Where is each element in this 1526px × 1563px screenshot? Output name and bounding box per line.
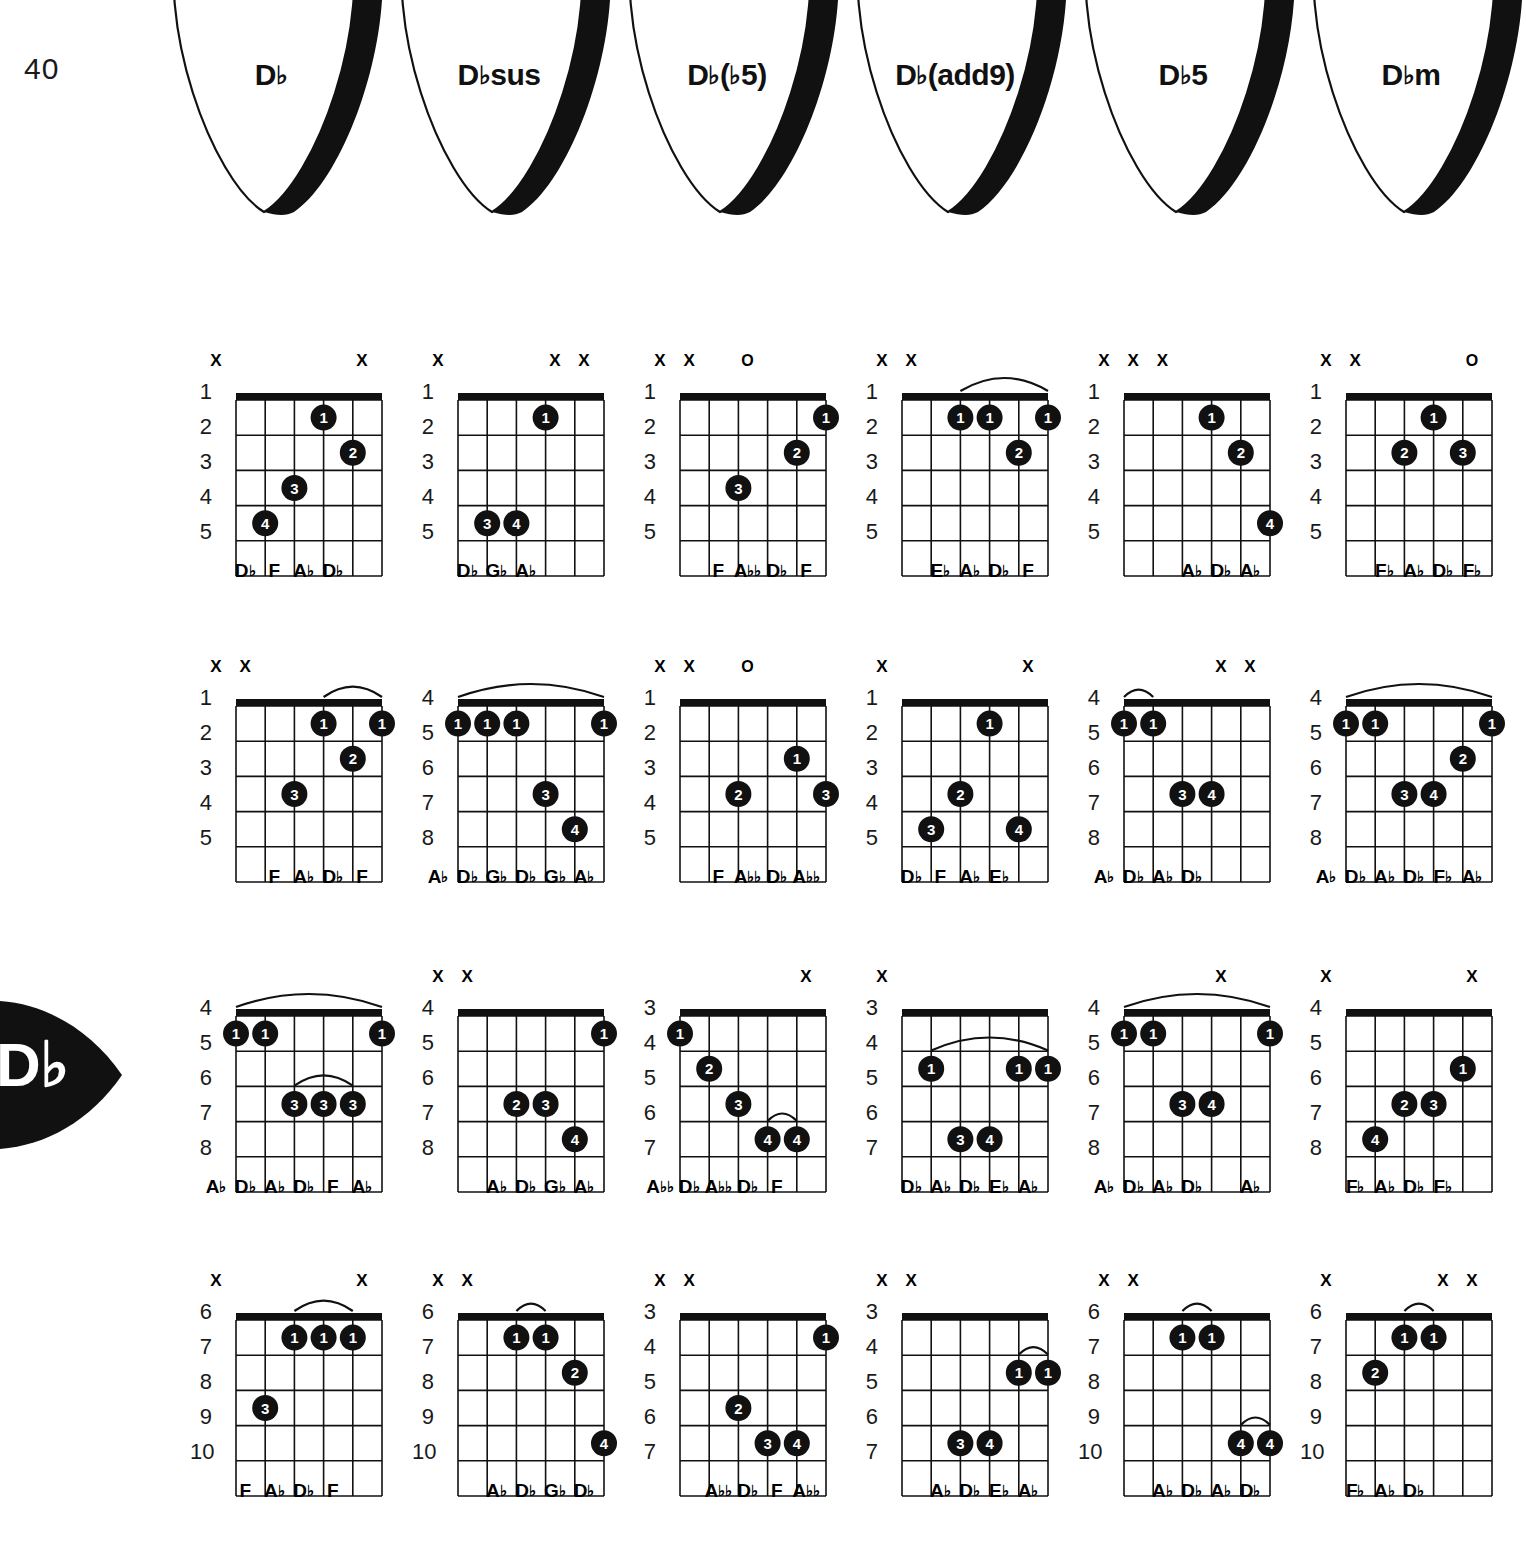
chord-diagram[interactable]: 45678111234A♭D♭A♭D♭F♭A♭ — [1300, 658, 1510, 898]
finger-dot: 1 — [369, 711, 395, 737]
fretboard-wrap[interactable]: 123 — [660, 680, 806, 856]
fretboard-wrap[interactable]: 1112 — [882, 374, 1028, 550]
string-markers: XXO — [1326, 352, 1472, 374]
fretboard-wrap[interactable]: 1134 — [1104, 680, 1250, 856]
chord-diagram[interactable]: XX6789101144A♭D♭A♭D♭ — [1078, 1272, 1288, 1512]
svg-text:1: 1 — [319, 715, 327, 732]
finger-dot: 1 — [813, 1325, 839, 1351]
chord-diagram[interactable]: 45678111333A♭D♭A♭D♭FA♭ — [190, 968, 400, 1208]
chord-diagram[interactable]: XX123451234D♭FA♭D♭ — [190, 352, 400, 592]
chord-diagram[interactable]: 45678111134A♭D♭G♭D♭G♭A♭ — [412, 658, 622, 898]
chord-diagram[interactable]: XX456781134A♭D♭A♭D♭ — [1078, 658, 1288, 898]
fret-number: 8 — [1300, 1137, 1322, 1159]
svg-text:1: 1 — [1149, 715, 1157, 732]
fretboard: 123 — [1326, 374, 1512, 584]
finger-dot: 4 — [252, 510, 278, 536]
fret-number: 5 — [412, 521, 434, 543]
chord-diagram[interactable]: XXX12345134D♭G♭A♭ — [412, 352, 622, 592]
fretboard-wrap[interactable]: 1144 — [1104, 1294, 1250, 1470]
fret-number: 10 — [412, 1441, 434, 1463]
fretboard-wrap[interactable]: 11134 — [882, 990, 1028, 1166]
string-markers: XX — [438, 1272, 584, 1294]
chord-diagram[interactable]: XX123451123FA♭D♭F — [190, 658, 400, 898]
note-names: A♭D♭G♭D♭G♭A♭ — [408, 866, 592, 892]
chord-diagram[interactable]: XX345671134A♭D♭E♭A♭ — [856, 1272, 1066, 1512]
svg-text:1: 1 — [1044, 409, 1052, 426]
chord-diagram[interactable]: XX345671234A♭♭D♭FA♭♭ — [634, 1272, 844, 1512]
fretboard-wrap[interactable]: 112 — [1326, 1294, 1472, 1470]
finger-dot: 1 — [977, 405, 1003, 431]
fret-number: 4 — [190, 997, 212, 1019]
svg-text:3: 3 — [1400, 786, 1408, 803]
fretboard-wrap[interactable]: 1234 — [216, 374, 362, 550]
barre-arc — [1346, 684, 1492, 697]
note-names: FA♭D♭F — [186, 1480, 370, 1506]
finger-dot: 3 — [755, 1430, 781, 1456]
chord-diagram[interactable]: XXX678910112F♭A♭D♭ — [1300, 1272, 1510, 1512]
chord-diagram[interactable]: XX456781234F♭A♭D♭F♭ — [1300, 968, 1510, 1208]
fretboard-wrap[interactable]: 1124 — [438, 1294, 584, 1470]
chord-diagram[interactable]: XX6789101113FA♭D♭F — [190, 1272, 400, 1512]
fret-number: 5 — [1300, 722, 1322, 744]
fretboard-wrap[interactable]: 1123 — [216, 680, 362, 856]
finger-dot: 2 — [503, 1091, 529, 1117]
fret-number: 8 — [1078, 827, 1100, 849]
chord-diagram[interactable]: X4567811134A♭D♭A♭D♭A♭ — [1078, 968, 1288, 1208]
fretboard-wrap[interactable]: 111333 — [216, 990, 362, 1166]
fretboard-wrap[interactable]: 1234 — [882, 680, 1028, 856]
fret-number: 7 — [1300, 1102, 1322, 1124]
note-name: D♭ — [1397, 1480, 1431, 1503]
string-markers: XXX — [1104, 352, 1250, 374]
chord-diagram[interactable]: XXO12345123FA♭♭D♭F — [634, 352, 844, 592]
fret-number: 9 — [412, 1406, 434, 1428]
fretboard-wrap[interactable]: 1234 — [660, 1294, 806, 1470]
fret-numbers: 45678 — [412, 990, 436, 1166]
fret-number: 7 — [1078, 1102, 1100, 1124]
chord-diagram[interactable]: X3456711134D♭A♭D♭E♭A♭ — [856, 968, 1066, 1208]
barre-arc — [1019, 1347, 1048, 1354]
fretboard-wrap[interactable]: 134 — [438, 374, 584, 550]
barre-arc — [1182, 1304, 1211, 1311]
chord-diagram[interactable]: XX456781234A♭D♭G♭A♭ — [412, 968, 622, 1208]
string-marker-muted: X — [873, 658, 891, 676]
svg-text:1: 1 — [261, 1025, 269, 1042]
finger-dot: 4 — [784, 1126, 810, 1152]
fret-number: 2 — [190, 416, 212, 438]
string-marker-muted: X — [1317, 968, 1335, 986]
fret-numbers: 12345 — [634, 374, 658, 550]
chord-diagram[interactable]: X3456712344A♭♭D♭A♭♭D♭F — [634, 968, 844, 1208]
fret-numbers: 34567 — [856, 990, 880, 1166]
fretboard-wrap[interactable]: 1234 — [438, 990, 584, 1166]
fret-numbers: 45678 — [1078, 680, 1102, 856]
fretboard-wrap[interactable]: 12344 — [660, 990, 806, 1166]
chord-diagram[interactable]: XX123451112E♭A♭D♭F — [856, 352, 1066, 592]
fret-numbers: 45678 — [190, 990, 214, 1166]
chord-diagram[interactable]: XX123451234D♭FA♭E♭ — [856, 658, 1066, 898]
fret-number: 3 — [190, 451, 212, 473]
svg-text:1: 1 — [349, 1329, 357, 1346]
barre-arc — [960, 378, 1048, 391]
fretboard-wrap[interactable]: 111234 — [1326, 680, 1472, 856]
fretboard-wrap[interactable]: 1134 — [882, 1294, 1028, 1470]
chord-diagram[interactable]: XXX12345124A♭D♭A♭ — [1078, 352, 1288, 592]
fretboard-wrap[interactable]: 11134 — [1104, 990, 1250, 1166]
fretboard-wrap[interactable]: 124 — [1104, 374, 1250, 550]
chord-diagram[interactable]: XX6789101124A♭D♭G♭D♭ — [412, 1272, 622, 1512]
fret-number: 6 — [856, 1102, 878, 1124]
fretboard-wrap[interactable]: 123 — [1326, 374, 1472, 550]
chord-diagram[interactable]: XXO12345123F♭A♭D♭F♭ — [1300, 352, 1510, 592]
chord-diagram[interactable]: XXO12345123FA♭♭D♭A♭♭ — [634, 658, 844, 898]
fret-number: 2 — [1078, 416, 1100, 438]
svg-text:3: 3 — [956, 1435, 964, 1452]
fretboard-wrap[interactable]: 111134 — [438, 680, 584, 856]
note-name: D♭ — [1175, 1176, 1209, 1199]
fretboard-wrap[interactable]: 1113 — [216, 1294, 362, 1470]
finger-dot: 3 — [1169, 781, 1195, 807]
fret-number: 8 — [190, 1371, 212, 1393]
fretboard-wrap[interactable]: 123 — [660, 374, 806, 550]
svg-text:1: 1 — [1266, 1025, 1274, 1042]
fret-number: 4 — [412, 997, 434, 1019]
fretboard-wrap[interactable]: 1234 — [1326, 990, 1472, 1166]
fret-number: 4 — [856, 1336, 878, 1358]
svg-text:4: 4 — [1237, 1435, 1246, 1452]
